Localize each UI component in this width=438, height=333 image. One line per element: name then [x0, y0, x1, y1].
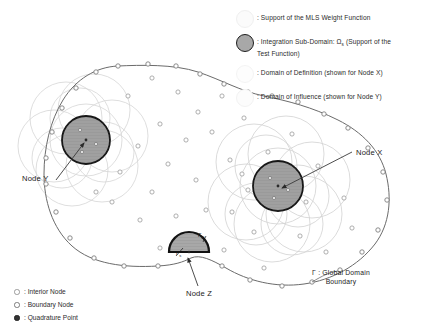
legend-node-types: : Interior Node : Boundary Node : Quadra… [12, 288, 78, 327]
faint-circle-icon [236, 89, 254, 107]
legend-label-interior-node: : Interior Node [24, 288, 66, 296]
legend-label-boundary-node: : Boundary Node [24, 301, 74, 309]
gamma-si-subscript: sI [201, 235, 204, 240]
legend-row-quadrature-point: : Quadrature Point [12, 314, 78, 322]
label-node-z: Node Z [186, 289, 212, 298]
legend-row-domain-of-definition: : Domain of Definition (shown for Node X… [236, 65, 436, 83]
legend-integration-line2: Test Function) [257, 50, 300, 57]
label-gamma-si: ΓsI [198, 232, 204, 240]
integration-subdomain-node-y [62, 116, 110, 164]
legend-label-integration-subdomain: : Integration Sub-Domain: Ωs (Support of… [257, 34, 391, 59]
boundary-node-dot-icon [12, 302, 22, 307]
label-gamma-s: Γs [176, 250, 181, 258]
figure-canvas: : Support of the MLS Weight Function : I… [0, 0, 438, 333]
leader-line-node-z [188, 258, 198, 286]
faint-circle-icon [236, 65, 254, 83]
legend-integration-prefix: : Integration Sub-Domain: Ω [257, 38, 342, 45]
label-global-domain-boundary: Γ : Global Domain Boundary [306, 268, 376, 286]
quadrature-point-dot-icon [12, 315, 22, 320]
gamma-s-subscript: s [179, 253, 181, 258]
integration-subdomain-node-x [253, 161, 303, 211]
legend-label-domain-of-influence: : Domain of Influence (shown for Node Y) [257, 89, 382, 102]
label-node-y: Node Y [22, 174, 48, 183]
legend-row-interior-node: : Interior Node [12, 288, 78, 296]
label-node-x: Node X [356, 148, 383, 157]
legend-domains: : Support of the MLS Weight Function : I… [236, 10, 436, 113]
interior-node-dot-icon [12, 289, 22, 294]
legend-row-domain-of-influence: : Domain of Influence (shown for Node Y) [236, 89, 436, 107]
light-circle-icon [236, 10, 254, 28]
legend-label-weight-support: : Support of the MLS Weight Function [257, 10, 370, 23]
legend-row-weight-support: : Support of the MLS Weight Function [236, 10, 436, 28]
legend-row-boundary-node: : Boundary Node [12, 301, 78, 309]
legend-label-quadrature-point: : Quadrature Point [24, 314, 78, 322]
legend-integration-suffix: (Support of the [344, 38, 391, 45]
legend-row-integration-subdomain: : Integration Sub-Domain: Ωs (Support of… [236, 34, 436, 59]
legend-label-domain-of-definition: : Domain of Definition (shown for Node X… [257, 65, 383, 78]
filled-gray-circle-icon [236, 34, 254, 52]
